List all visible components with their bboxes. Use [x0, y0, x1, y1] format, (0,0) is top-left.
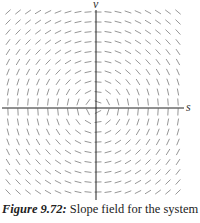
- slope-segment: [125, 21, 132, 23]
- slope-segment: [155, 40, 160, 45]
- slope-segment: [26, 39, 31, 44]
- slope-segment: [86, 109, 89, 115]
- slope-segment: [55, 50, 61, 54]
- slope-segment: [175, 10, 180, 15]
- slope-segment: [105, 41, 112, 42]
- slope-segment: [15, 10, 20, 14]
- slope-segment: [65, 11, 72, 13]
- slope-segment: [15, 190, 20, 195]
- slope-segment: [35, 40, 40, 45]
- slope-segment: [36, 159, 41, 164]
- slope-segment: [176, 149, 179, 155]
- slope-segment: [65, 70, 71, 74]
- slope-segment: [37, 79, 40, 85]
- slope-segment: [85, 42, 92, 43]
- slope-segment: [75, 70, 81, 73]
- slope-segment: [115, 70, 121, 74]
- slope-segment: [157, 119, 159, 126]
- slope-segment: [137, 89, 140, 96]
- slope-segment: [85, 32, 92, 33]
- slope-segment: [36, 49, 41, 54]
- slope-segment: [156, 159, 161, 164]
- slope-segment: [145, 20, 151, 24]
- slope-segment: [176, 29, 181, 34]
- slope-segment: [105, 61, 112, 63]
- slope-segment: [156, 49, 161, 54]
- slope-segment: [156, 59, 160, 65]
- slope-segment: [115, 41, 122, 43]
- slope-segment: [115, 161, 121, 164]
- slope-segment: [85, 52, 92, 53]
- slope-segment: [16, 179, 21, 184]
- slope-segment: [17, 129, 19, 136]
- slope-segment: [45, 170, 51, 174]
- slope-segment: [35, 190, 41, 194]
- slope-segment: [176, 39, 180, 44]
- slope-segment: [6, 29, 11, 34]
- slope-segment: [45, 190, 51, 193]
- slope-segment: [145, 170, 150, 174]
- slope-segment: [17, 139, 20, 145]
- slope-segment: [105, 12, 112, 13]
- slope-segment: [6, 49, 10, 55]
- slope-segment: [75, 171, 82, 173]
- slope-segment: [56, 79, 60, 85]
- slope-segment: [115, 191, 122, 193]
- slope-segment: [175, 20, 180, 25]
- slope-segment: [16, 159, 20, 165]
- slope-segment: [86, 99, 90, 105]
- slope-segment: [46, 139, 50, 145]
- slope-segment: [57, 99, 58, 106]
- slope-segment: [26, 49, 30, 54]
- slope-segment: [7, 79, 9, 86]
- slope-segment: [25, 20, 31, 24]
- slope-segment: [177, 139, 180, 145]
- slope-segment: [127, 99, 128, 106]
- slope-segment: [135, 60, 140, 65]
- slope-segment: [105, 90, 111, 94]
- slope-segment: [36, 139, 40, 145]
- slope-segment: [66, 129, 71, 134]
- slope-segment: [177, 79, 179, 86]
- slope-segment: [136, 139, 140, 144]
- slope-segment: [45, 40, 51, 44]
- slope-segment: [35, 170, 40, 175]
- slope-segment: [55, 11, 62, 14]
- slope-segment: [135, 190, 141, 193]
- slope-segment: [66, 89, 69, 95]
- slope-segment: [165, 190, 170, 195]
- slope-segment: [36, 69, 40, 75]
- slope-segment: [6, 169, 10, 175]
- slope-segment: [16, 49, 20, 55]
- slope-segment: [167, 79, 169, 86]
- slope-segment: [115, 21, 122, 23]
- slope-segment: [135, 11, 141, 14]
- slope-segment: [148, 109, 149, 116]
- slope-segment: [105, 71, 112, 73]
- slope-segment: [115, 80, 120, 85]
- slope-segment: [65, 60, 71, 64]
- slope-segment: [17, 89, 18, 96]
- slope-segment: [145, 190, 151, 194]
- slope-segment: [75, 151, 81, 154]
- slope-segment: [55, 60, 60, 64]
- slope-segment: [125, 50, 131, 53]
- slope-segment: [76, 119, 80, 125]
- slope-segment: [125, 60, 131, 64]
- slope-segment: [37, 129, 40, 135]
- slope-segment: [135, 40, 141, 44]
- slope-segment: [155, 190, 161, 194]
- slope-segment: [106, 99, 109, 105]
- slope-segment: [136, 79, 140, 85]
- slope-segment: [75, 51, 82, 53]
- slope-segment: [85, 120, 91, 123]
- slope-segment: [128, 109, 129, 116]
- slope-segment: [45, 20, 51, 23]
- slope-segment: [85, 81, 92, 83]
- slope-segment: [147, 119, 149, 126]
- slope-segment: [25, 190, 30, 194]
- slope-segment: [135, 180, 141, 183]
- slope-segment: [145, 30, 151, 34]
- slope-segment: [35, 180, 41, 184]
- slope-segment: [85, 90, 91, 93]
